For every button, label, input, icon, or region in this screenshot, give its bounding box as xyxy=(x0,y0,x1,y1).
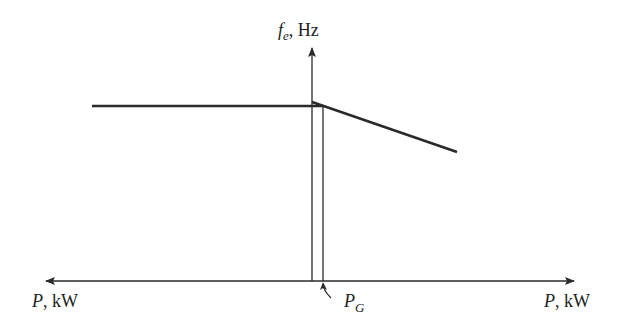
droop-diagram: fe, Hz P, kW P, kW PG xyxy=(0,0,627,333)
y-axis-label: fe, Hz xyxy=(278,20,319,43)
pg-label: PG xyxy=(343,291,365,315)
x-axis-left-label: P, kW xyxy=(31,291,78,311)
x-axis-right-label: P, kW xyxy=(543,291,590,311)
generator-droop-line xyxy=(312,102,457,152)
